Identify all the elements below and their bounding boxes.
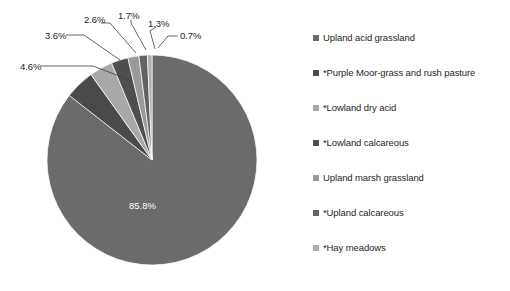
legend-swatch-icon (313, 210, 319, 216)
legend-item-label: *Hay meadows (323, 242, 386, 253)
pie-chart-figure: 85.8%2.6%1.7%1.3%0.7%3.6%4.6% Upland aci… (0, 0, 510, 291)
legend-item[interactable]: *Upland calcareous (313, 207, 510, 242)
legend-swatch-icon (313, 35, 319, 41)
pie-value-label-inside: 85.8% (129, 200, 156, 211)
leader-line-1-3 (150, 27, 156, 49)
legend-item-label: Upland marsh grassland (323, 172, 424, 183)
pie-value-label-callout: 4.6% (20, 61, 41, 72)
legend-item[interactable]: Upland acid grassland (313, 32, 510, 67)
pie-value-label-callout: 0.7% (180, 30, 201, 41)
legend-swatch-icon (313, 140, 319, 146)
chart-legend: Upland acid grassland*Purple Moor-grass … (313, 32, 510, 277)
legend-item-label: *Lowland dry acid (323, 102, 396, 113)
legend-item-label: *Lowland calcareous (323, 137, 409, 148)
pie-value-label-callout: 2.6% (84, 14, 105, 25)
legend-item[interactable]: *Purple Moor-grass and rush pasture (313, 67, 510, 102)
leader-line-0-7 (158, 36, 178, 48)
legend-swatch-icon (313, 105, 319, 111)
legend-item-label: Upland acid grassland (323, 32, 415, 43)
legend-swatch-icon (313, 70, 319, 76)
leader-line-3-6 (66, 35, 120, 60)
pie-slice-group (47, 55, 257, 265)
legend-item[interactable]: *Lowland dry acid (313, 102, 510, 137)
legend-item[interactable]: *Lowland calcareous (313, 137, 510, 172)
pie-value-label-callout: 1.3% (148, 18, 169, 29)
pie-svg (0, 0, 300, 291)
legend-swatch-icon (313, 175, 319, 181)
legend-item[interactable]: Upland marsh grassland (313, 172, 510, 207)
leader-line-1-7 (131, 20, 146, 50)
leader-line-2-6 (101, 23, 136, 53)
legend-swatch-icon (313, 245, 319, 251)
legend-item-label: *Purple Moor-grass and rush pasture (323, 67, 475, 78)
pie-value-label-callout: 1.7% (118, 10, 139, 21)
legend-item-label: *Upland calcareous (323, 207, 404, 218)
pie-plot-area: 85.8%2.6%1.7%1.3%0.7%3.6%4.6% (0, 0, 300, 291)
legend-item[interactable]: *Hay meadows (313, 242, 510, 277)
pie-value-label-callout: 3.6% (45, 30, 66, 41)
